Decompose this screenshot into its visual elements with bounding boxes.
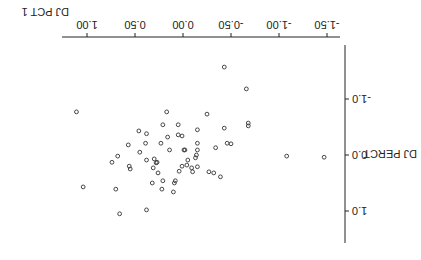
data-point [166,135,170,139]
x-axis: -1.50-1.00-0.500.000.501.00 [62,19,340,37]
data-point [144,141,148,145]
data-point [137,129,141,133]
data-point [225,141,229,145]
data-point [171,190,175,194]
data-point [156,171,160,175]
data-point [110,160,114,164]
data-point [75,110,79,114]
data-point [159,141,163,145]
data-point [138,150,142,154]
x-axis-label: DJ PCT 1 [22,6,69,18]
data-point [81,185,85,189]
data-point [151,166,155,170]
y-axis-label: DJ PERCT [363,148,417,160]
data-point [185,163,189,167]
x-tick-label: 0.50 [124,19,145,31]
data-point [285,154,289,158]
y-tick-label: 1.0 [352,205,367,217]
data-point [191,170,195,174]
data-point [180,134,184,138]
data-point [116,154,120,158]
data-point [161,123,165,127]
data-point [145,208,149,212]
data-point [165,110,169,114]
data-point [152,157,156,161]
data-point [177,169,181,173]
data-point [219,175,223,179]
data-point [212,171,216,175]
data-point [118,212,122,216]
data-point [195,128,199,132]
data-point [126,143,130,147]
data-point [190,166,194,170]
data-point [186,158,190,162]
data-point [244,87,248,91]
x-tick-label: -1.00 [266,19,291,31]
data-point [207,170,211,174]
data-points [75,65,326,216]
data-point [160,187,164,191]
data-point [145,132,149,136]
data-point [195,148,199,152]
data-point [150,181,154,185]
data-point [222,65,226,69]
data-point [145,158,149,162]
data-point [161,179,165,183]
x-tick-label: 1.00 [76,19,97,31]
data-point [195,141,199,145]
x-tick-label: -1.50 [314,19,339,31]
data-point [229,142,233,146]
data-point [322,155,326,159]
data-point [195,165,199,169]
data-point [222,126,226,130]
data-point [180,164,184,168]
y-axis: -1.00.01.0 [345,45,371,243]
data-point [168,148,172,152]
data-point [114,187,118,191]
x-tick-label: -0.50 [218,19,243,31]
data-point [205,112,209,116]
scatter-chart: -1.50-1.00-0.500.000.501.00 -1.00.01.0 D… [0,0,421,260]
x-tick-label: 0.00 [172,19,193,31]
data-point [176,133,180,137]
y-tick-label: -1.0 [352,93,371,105]
data-point [176,123,180,127]
data-point [214,146,218,150]
